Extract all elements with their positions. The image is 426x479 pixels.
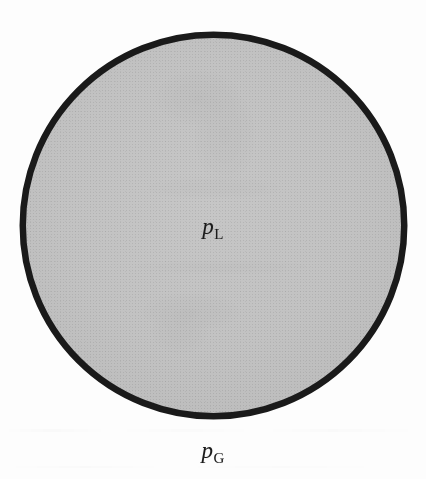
- gas-pressure-label: pG: [201, 439, 224, 466]
- gas-pressure-symbol: p: [201, 438, 213, 463]
- gas-pressure-subscript: G: [213, 449, 224, 465]
- figure-root: pL pG: [0, 0, 426, 479]
- liquid-pressure-symbol: p: [202, 214, 214, 239]
- liquid-pressure-subscript: L: [214, 225, 223, 241]
- liquid-pressure-label: pL: [202, 215, 223, 242]
